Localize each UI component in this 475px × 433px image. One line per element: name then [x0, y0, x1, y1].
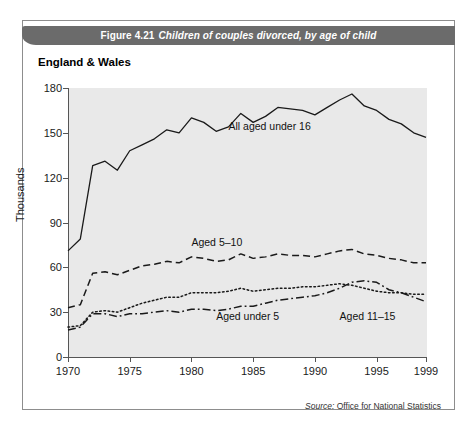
- source-text: Office for National Statistics: [334, 401, 441, 411]
- series-annotation: All aged under 16: [228, 120, 310, 132]
- x-tick-label: 1980: [179, 365, 203, 377]
- figure-title-bar: Figure 4.21Children of couples divorced,…: [22, 26, 455, 45]
- y-tick-label: 0: [28, 351, 62, 363]
- figure-title: Figure 4.21Children of couples divorced,…: [101, 30, 377, 41]
- x-tick-mark: [191, 357, 192, 362]
- source-note: Source: Office for National Statistics: [305, 401, 441, 411]
- y-tick-mark: [63, 312, 68, 313]
- x-tick-label: 1999: [414, 365, 438, 377]
- y-tick-label: 120: [28, 172, 62, 184]
- x-tick-mark: [253, 357, 254, 362]
- y-tick-label: 60: [28, 261, 62, 273]
- y-tick-mark: [63, 133, 68, 134]
- x-tick-mark: [68, 357, 69, 362]
- series-annotation: Aged 5–10: [191, 236, 242, 248]
- y-tick-label: 180: [28, 82, 62, 94]
- y-tick-label: 90: [28, 217, 62, 229]
- source-word: Source:: [305, 401, 334, 411]
- figure-caption: Children of couples divorced, by age of …: [155, 30, 377, 41]
- y-tick-label: 150: [28, 127, 62, 139]
- x-tick-label: 1975: [117, 365, 141, 377]
- series-annotation: Aged under 5: [216, 310, 279, 322]
- x-tick-label: 1970: [56, 365, 80, 377]
- x-tick-mark: [315, 357, 316, 362]
- y-tick-mark: [63, 223, 68, 224]
- y-tick-mark: [63, 88, 68, 89]
- x-tick-label: 1995: [364, 365, 388, 377]
- x-tick-label: 1985: [241, 365, 265, 377]
- x-tick-mark: [130, 357, 131, 362]
- series-annotation: Aged 11–15: [340, 310, 396, 322]
- x-tick-label: 1990: [303, 365, 327, 377]
- y-tick-label: 30: [28, 306, 62, 318]
- figure-number: Figure 4.21: [101, 30, 155, 41]
- y-tick-mark: [63, 178, 68, 179]
- y-tick-mark: [63, 267, 68, 268]
- x-tick-mark: [426, 357, 427, 362]
- region-label: England & Wales: [38, 56, 131, 68]
- y-axis-title: Thousands: [14, 168, 26, 222]
- x-tick-mark: [377, 357, 378, 362]
